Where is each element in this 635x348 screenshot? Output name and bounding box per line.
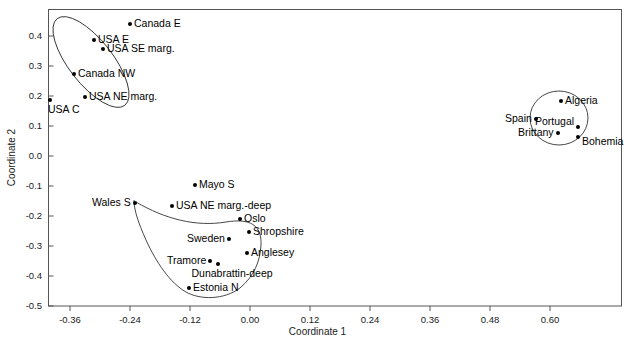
data-point-marker: [216, 262, 220, 266]
plot-canvas: [0, 0, 635, 348]
x-tick-label: 0.24: [340, 314, 400, 325]
data-point-label: Mayo S: [199, 179, 235, 190]
y-tick-label: -0.3: [4, 240, 42, 251]
data-point-marker: [208, 259, 212, 263]
y-tick-label: -0.4: [4, 270, 42, 281]
data-point-marker: [247, 230, 251, 234]
data-point-marker: [128, 22, 132, 26]
x-tick-label: 0.12: [280, 314, 340, 325]
data-point-label: Wales S: [92, 197, 131, 208]
data-point-marker: [238, 217, 242, 221]
data-point-marker: [245, 251, 249, 255]
y-tick-label: 0.3: [4, 60, 42, 71]
x-tick-label: -0.12: [160, 314, 220, 325]
x-axis-ticks: [70, 306, 550, 311]
data-point-marker: [83, 95, 87, 99]
y-axis-ticks: [49, 36, 54, 306]
x-tick-label: -0.36: [40, 314, 100, 325]
plot-frame: [49, 10, 622, 307]
y-axis-title: Coordinate 2: [6, 123, 17, 193]
data-point-marker: [556, 131, 560, 135]
data-point-label: Shropshire: [253, 226, 304, 237]
data-point-label: USA NE marg.-deep: [176, 200, 271, 211]
data-point-marker: [187, 286, 191, 290]
data-point-label: USA C: [48, 104, 80, 115]
data-point-label: Algeria: [565, 95, 598, 106]
x-tick-label: 0.60: [520, 314, 580, 325]
data-point-label: Bohemia: [582, 136, 623, 147]
y-tick-label: -0.5: [4, 300, 42, 311]
data-point-marker: [576, 125, 580, 129]
data-point-label: Brittany: [518, 127, 554, 138]
scatter-plot-figure: 0.4 0.3 0.2 0.1 0.0 -0.1 -0.2 -0.3 -0.4 …: [0, 0, 635, 348]
data-point-label: Tramore: [167, 255, 206, 266]
x-tick-label: 0.48: [460, 314, 520, 325]
y-tick-label: -0.2: [4, 210, 42, 221]
x-tick-label: 0.36: [400, 314, 460, 325]
y-tick-label: 0.4: [4, 30, 42, 41]
data-point-label: Canada E: [134, 18, 181, 29]
x-tick-label: 0.00: [220, 314, 280, 325]
data-point-label: Dunabrattin-deep: [192, 268, 273, 279]
x-axis-title: Coordinate 1: [0, 326, 635, 337]
data-point-label: Anglesey: [251, 247, 294, 258]
data-point-label: Spain: [505, 113, 532, 124]
data-point-label: USA NE marg.: [89, 91, 157, 102]
y-tick-label: 0.2: [4, 90, 42, 101]
data-point-marker: [92, 38, 96, 42]
x-tick-label: -0.24: [100, 314, 160, 325]
data-point-marker: [48, 98, 52, 102]
data-point-marker: [101, 47, 105, 51]
data-point-label: Oslo: [244, 213, 266, 224]
data-point-label: Portugal: [535, 116, 574, 127]
data-point-label: USA SE marg.: [107, 43, 175, 54]
data-point-label: Canada NW: [78, 68, 135, 79]
data-point-label: Estonia N: [193, 282, 239, 293]
data-point-label: Sweden: [187, 233, 225, 244]
